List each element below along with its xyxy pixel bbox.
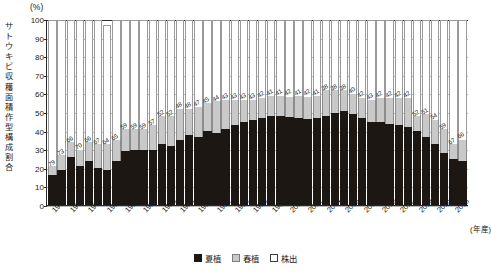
y-axis-title: サトウキビ収穫面積作型構成割合 <box>2 22 15 222</box>
bar-segment-kabudashi <box>340 20 348 90</box>
bar-column[interactable]: 48 <box>185 20 193 205</box>
bar-segment-natsuue <box>385 124 393 205</box>
bar-column[interactable]: 48 <box>176 20 184 205</box>
bar-column[interactable]: 43 <box>249 20 257 205</box>
bar-column[interactable]: 38 <box>340 20 348 205</box>
bar-segment-kabudashi <box>203 20 211 103</box>
bar-column[interactable]: 42 <box>395 20 403 205</box>
bar-column[interactable]: 41 <box>294 20 302 205</box>
bar-column[interactable]: 67 <box>94 20 102 205</box>
y-tick-label: 30 <box>22 146 44 155</box>
bar-column[interactable]: 59 <box>440 20 448 205</box>
bar-column[interactable]: 40 <box>349 20 357 205</box>
y-axis-title-char: サ <box>2 22 15 32</box>
bar-segment-kabudashi <box>449 20 457 144</box>
bar-segment-natsuue <box>313 118 321 205</box>
bar-segment-haruue <box>358 98 366 118</box>
y-tick-label: 20 <box>22 164 44 173</box>
y-axis-title-char: 積 <box>2 103 15 113</box>
bar-segment-haruue <box>212 101 220 132</box>
bar-column[interactable]: 41 <box>313 20 321 205</box>
bar-column[interactable]: 42 <box>358 20 366 205</box>
bar-segment-natsuue <box>322 116 330 205</box>
bar-segment-natsuue <box>194 137 202 205</box>
bar-segment-natsuue <box>258 118 266 205</box>
bar-segment-haruue <box>313 96 321 118</box>
bar-segment-haruue <box>267 96 275 116</box>
y-axis-title-char: 面 <box>2 93 15 103</box>
bar-column[interactable]: 42 <box>303 20 311 205</box>
bar-segment-kabudashi <box>294 20 302 96</box>
bar-column[interactable]: 42 <box>285 20 293 205</box>
chart-legend: 夏植春植株出 <box>0 252 490 264</box>
bar-column[interactable]: 66 <box>85 20 93 205</box>
bar-column[interactable]: 64 <box>103 20 111 205</box>
bar-column[interactable]: 42 <box>385 20 393 205</box>
bar-column[interactable]: 42 <box>376 20 384 205</box>
bar-column[interactable]: 52 <box>413 20 421 205</box>
bar-column[interactable]: 38 <box>331 20 339 205</box>
bar-segment-natsuue <box>358 118 366 205</box>
bar-segment-kabudashi <box>112 20 120 140</box>
bar-segment-kabudashi <box>121 20 129 129</box>
bar-column[interactable]: 59 <box>139 20 147 205</box>
bar-column[interactable]: 79 <box>48 20 56 205</box>
bar-segment-haruue <box>258 98 266 118</box>
bar-column[interactable]: 47 <box>194 20 202 205</box>
y-tick-label: 40 <box>22 127 44 136</box>
bar-column[interactable]: 44 <box>212 20 220 205</box>
bar-column[interactable]: 66 <box>458 20 466 205</box>
bar-column[interactable]: 59 <box>121 20 129 205</box>
bar-column[interactable]: 43 <box>367 20 375 205</box>
bar-segment-natsuue <box>85 161 93 205</box>
bar-segment-natsuue <box>221 129 229 205</box>
legend-item[interactable]: 夏植 <box>194 252 221 264</box>
bar-segment-haruue <box>167 116 175 146</box>
bar-segment-kabudashi <box>285 20 293 97</box>
bar-column[interactable]: 51 <box>422 20 430 205</box>
y-tick-label: 50 <box>22 109 44 118</box>
y-axis-title-char: キ <box>2 52 15 62</box>
bar-segment-haruue <box>240 100 248 122</box>
bar-segment-haruue <box>395 98 403 126</box>
bar-segment-haruue <box>276 96 284 116</box>
bar-column[interactable]: 67 <box>449 20 457 205</box>
bar-column[interactable]: 54 <box>431 20 439 205</box>
bar-segment-kabudashi <box>422 20 430 114</box>
bar-column[interactable]: 41 <box>276 20 284 205</box>
bar-column[interactable]: 43 <box>221 20 229 205</box>
bar-segment-kabudashi <box>376 20 384 98</box>
bar-segment-haruue <box>176 109 184 140</box>
bar-segment-kabudashi <box>276 20 284 96</box>
bar-segment-natsuue <box>376 122 384 205</box>
bar-column[interactable]: 45 <box>203 20 211 205</box>
y-tick-label: 0 <box>22 202 44 211</box>
bar-segment-kabudashi <box>212 20 220 101</box>
bar-column[interactable]: 41 <box>267 20 275 205</box>
legend-item[interactable]: 春植 <box>232 252 259 264</box>
bar-segment-haruue <box>249 100 257 120</box>
bar-column[interactable]: 66 <box>67 20 75 205</box>
bar-column[interactable]: 43 <box>231 20 239 205</box>
bar-column[interactable]: 52 <box>167 20 175 205</box>
bar-segment-natsuue <box>240 122 248 205</box>
bar-segment-haruue <box>331 90 339 112</box>
bar-segment-natsuue <box>285 117 293 205</box>
bar-segment-kabudashi <box>85 20 93 142</box>
bar-column[interactable]: 65 <box>112 20 120 205</box>
bar-column[interactable]: 73 <box>57 20 65 205</box>
bar-column[interactable]: 59 <box>130 20 138 205</box>
bar-segment-kabudashi <box>185 20 193 109</box>
bar-segment-haruue <box>185 109 193 135</box>
bar-segment-natsuue <box>404 127 412 205</box>
bar-column[interactable]: 70 <box>76 20 84 205</box>
bar-column[interactable]: 43 <box>240 20 248 205</box>
y-tick-mark <box>44 206 47 207</box>
bar-segment-kabudashi <box>167 20 175 116</box>
legend-item[interactable]: 株出 <box>270 252 297 264</box>
bar-column[interactable]: 38 <box>322 20 330 205</box>
bar-segment-kabudashi <box>103 25 111 144</box>
bar-column[interactable]: 42 <box>258 20 266 205</box>
bar-segment-haruue <box>57 155 65 170</box>
